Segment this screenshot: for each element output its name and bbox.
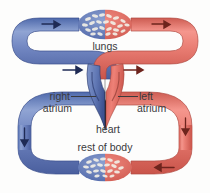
body-capillary-bed <box>78 154 132 182</box>
circulatory-system-diagram: lungs right atrium left atrium heart res… <box>0 0 210 193</box>
right-atrium-label-line2: atrium <box>43 102 72 114</box>
diagram-canvas: lungs right atrium left atrium heart res… <box>0 0 210 193</box>
right-atrium-label-line1: right <box>50 90 71 102</box>
pulmonary-vein-arrow-icon <box>124 67 143 74</box>
left-atrium-label-line2: atrium <box>137 102 166 114</box>
heart-label: heart <box>96 123 120 135</box>
lungs-label: lungs <box>92 40 117 52</box>
rest-of-body-label: rest of body <box>78 141 134 153</box>
pulmonary-artery-arrow-icon <box>63 67 82 74</box>
left-atrium-label-line1: left <box>139 90 153 102</box>
lungs-capillary-bed <box>78 10 132 40</box>
